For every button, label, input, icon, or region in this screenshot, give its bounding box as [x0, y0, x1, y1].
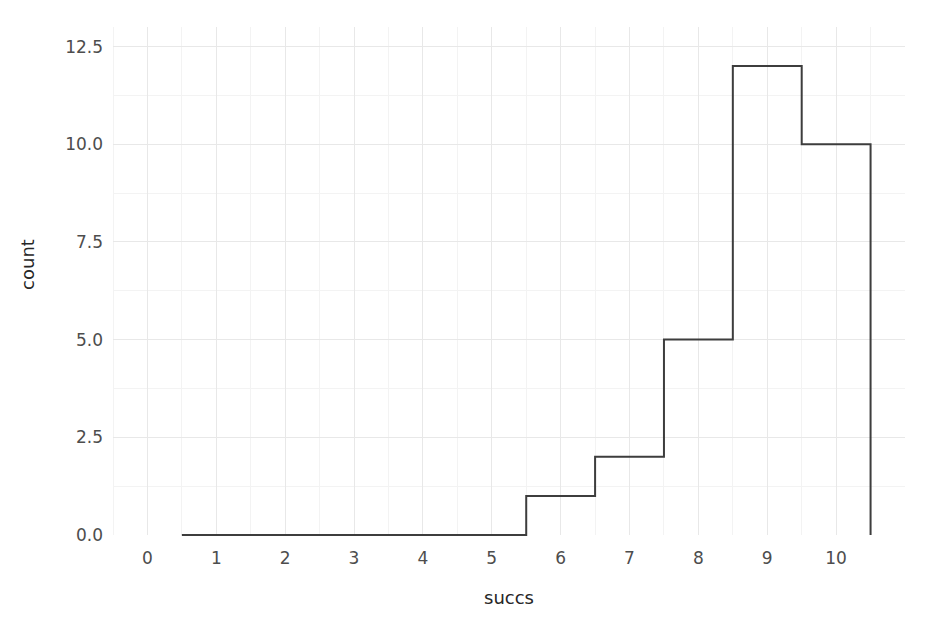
x-axis-tick-label: 5 — [486, 548, 497, 568]
x-axis-tick-label: 8 — [693, 548, 704, 568]
x-axis-tick-label: 3 — [349, 548, 360, 568]
y-axis-label: count — [17, 205, 38, 325]
y-axis-tick-labels: 0.02.55.07.510.012.5 — [0, 27, 103, 535]
plot-area — [113, 27, 905, 535]
y-axis-tick-label: 0.0 — [76, 525, 103, 545]
x-axis-tick-label: 7 — [624, 548, 635, 568]
y-axis-tick-label: 12.5 — [65, 37, 103, 57]
x-axis-tick-label: 6 — [555, 548, 566, 568]
x-axis-tick-label: 0 — [142, 548, 153, 568]
y-axis-tick-label: 7.5 — [76, 232, 103, 252]
histogram-bar — [664, 340, 733, 535]
histogram-bars — [113, 27, 905, 535]
x-axis-tick-labels: 012345678910 — [113, 548, 905, 574]
y-axis-tick-label: 5.0 — [76, 330, 103, 350]
x-axis-tick-label: 10 — [825, 548, 847, 568]
histogram-figure: 0.02.55.07.510.012.5 012345678910 succs … — [0, 0, 933, 641]
histogram-bar — [802, 144, 871, 535]
histogram-bar — [733, 66, 802, 535]
x-axis-tick-label: 1 — [211, 548, 222, 568]
histogram-bar — [526, 496, 595, 535]
y-axis-tick-label: 10.0 — [65, 134, 103, 154]
x-axis-tick-label: 4 — [417, 548, 428, 568]
x-axis-tick-label: 2 — [280, 548, 291, 568]
x-axis-tick-label: 9 — [762, 548, 773, 568]
histogram-bar — [595, 457, 664, 535]
y-axis-tick-label: 2.5 — [76, 427, 103, 447]
x-axis-label: succs — [113, 587, 905, 608]
